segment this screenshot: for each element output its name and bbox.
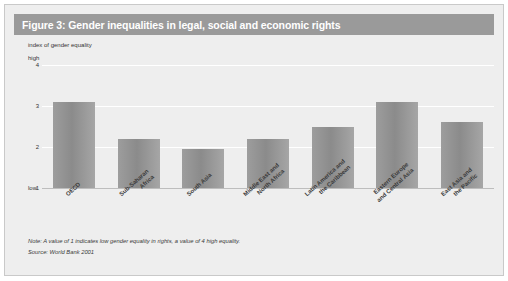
note-text: Note: A value of 1 indicates low gender … [28,236,468,247]
bar-OECD [53,102,95,188]
y-axis-high-label: high [28,55,39,61]
y-tick-label-4: 4 [36,62,39,68]
chart-area: index of gender equality high low 1234 O… [14,42,494,232]
page-title: Figure 3: Gender inequalities in legal, … [14,19,340,31]
bar-slot [107,65,172,188]
x-label-slot: Eastern Europeand Central Asia [365,190,430,234]
figure-notes: Note: A value of 1 indicates low gender … [28,236,468,257]
x-label-slot: Latin America andthe Caribbean [300,190,365,234]
x-label-slot: South Asia [171,190,236,234]
figure-title-bar: Figure 3: Gender inequalities in legal, … [14,14,494,35]
figure-root: Figure 3: Gender inequalities in legal, … [0,0,508,281]
y-tick-label-2: 2 [36,144,39,150]
x-label-slot: Sub-SaharanAfrica [107,190,172,234]
y-axis-caption: index of gender equality [28,42,92,48]
y-tick-label-3: 3 [36,103,39,109]
bar-slot [42,65,107,188]
x-label-slot: Middle East andNorth Africa [236,190,301,234]
bar-slot [429,65,494,188]
source-text: Source: World Bank 2001 [28,247,468,258]
y-tick-label-1: 1 [36,185,39,191]
x-label-slot: East Asia andthe Pacific [429,190,494,234]
bar-slot [171,65,236,188]
x-axis-labels: OECDSub-SaharanAfricaSouth AsiaMiddle Ea… [42,190,494,234]
x-label-slot: OECD [42,190,107,234]
